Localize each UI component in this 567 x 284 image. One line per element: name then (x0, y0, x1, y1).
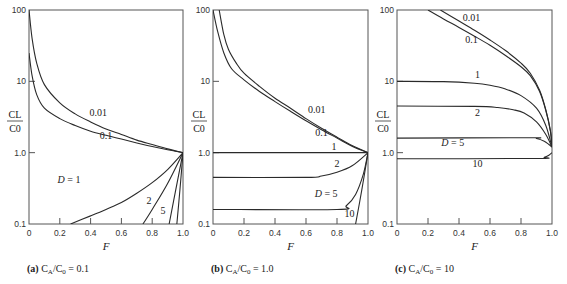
x-tick-label: 0.4 (269, 228, 281, 238)
panel-caption: (b) CA/C0 = 1.0 (211, 263, 274, 276)
y-tick-label: 0.1 (14, 219, 26, 229)
panel-c: 00.20.40.60.81.00.11.010100CLC0F0.010.11… (375, 5, 558, 276)
curve-label: 0.01 (90, 107, 108, 118)
curve-label: D = 5 (314, 188, 338, 199)
panel-b: 00.20.40.60.81.00.11.010100CLC0F0.010.11… (191, 5, 374, 276)
x-tick-label: 0 (395, 228, 400, 238)
y-axis-label-numerator: CL (193, 109, 206, 120)
curve-label: 1 (331, 141, 336, 152)
curve-label: 2 (475, 107, 480, 118)
y-tick-label: 1.0 (382, 148, 394, 158)
x-tick-label: 0.4 (453, 228, 465, 238)
panel-caption: (a) CA/C0 = 0.1 (27, 263, 89, 276)
x-tick-label: 0.8 (146, 228, 158, 238)
x-tick-label: 0.8 (331, 228, 343, 238)
series-line-d-0-01 (219, 10, 368, 153)
y-axis-label: CLC0 (7, 109, 23, 134)
y-tick-label: 0.1 (198, 219, 210, 229)
curve-label: 1 (475, 69, 480, 80)
y-axis-label-denominator: C0 (193, 123, 205, 134)
curve-label: 5 (160, 205, 165, 216)
x-tick-label: 0 (211, 228, 216, 238)
curve-label: 0.1 (315, 127, 328, 138)
panel-caption: (c) CA/C0 = 10 (395, 263, 454, 276)
plot-frame (213, 10, 368, 224)
x-tick-label: 0 (27, 228, 32, 238)
y-axis-label-denominator: C0 (377, 123, 389, 134)
figure-three-panel-chart: 00.20.40.60.81.00.11.010100CLC0F0.010.1D… (0, 0, 567, 284)
x-axis-label: F (102, 240, 110, 252)
y-tick-label: 10 (201, 76, 211, 86)
x-axis-label: F (286, 240, 294, 252)
y-tick-label: 1.0 (14, 148, 26, 158)
x-tick-label: 0.4 (85, 228, 97, 238)
curve-label: D = 5 (440, 137, 464, 148)
x-tick-label: 0.8 (515, 228, 527, 238)
curve-label: 2 (147, 195, 152, 206)
x-tick-label: 0.2 (238, 228, 250, 238)
y-tick-label: 10 (17, 76, 27, 86)
x-tick-label: 1.0 (177, 228, 189, 238)
series-line-d-5 (397, 138, 552, 147)
y-tick-label: 100 (196, 5, 210, 15)
series-line-d-5 (213, 153, 368, 210)
x-tick-label: 0.2 (54, 228, 66, 238)
x-axis-label: F (470, 240, 478, 252)
y-axis-label-numerator: CL (9, 109, 22, 120)
x-tick-label: 1.0 (362, 228, 374, 238)
curve-label: 10 (473, 158, 483, 169)
x-tick-label: 1.0 (546, 228, 558, 238)
curve-label: 0.01 (463, 12, 481, 23)
series-line-d-0-1 (213, 10, 368, 153)
y-axis-label-numerator: CL (377, 109, 390, 120)
x-tick-label: 0.2 (422, 228, 434, 238)
series-line-d-10 (356, 153, 368, 224)
y-axis-label: CLC0 (375, 109, 391, 134)
x-tick-label: 0.6 (484, 228, 496, 238)
y-tick-label: 100 (380, 5, 394, 15)
curve-label: 2 (335, 158, 340, 169)
y-tick-label: 100 (12, 5, 26, 15)
y-axis-label: CLC0 (191, 109, 207, 134)
series-line-d-0-01 (440, 10, 552, 147)
series-line-d-5 (169, 153, 183, 224)
y-axis-label-denominator: C0 (9, 123, 21, 134)
curve-label: 0.1 (100, 130, 113, 141)
curve-label: 0.01 (308, 104, 326, 115)
series-line-d-1 (71, 153, 183, 224)
series-line-d-2 (213, 153, 368, 178)
panel-a: 00.20.40.60.81.00.11.010100CLC0F0.010.1D… (7, 5, 189, 276)
x-tick-label: 0.6 (300, 228, 312, 238)
x-tick-label: 0.6 (115, 228, 127, 238)
curve-label: D = 1 (57, 174, 81, 185)
curve-label: 10 (344, 208, 354, 219)
y-tick-label: 1.0 (198, 148, 210, 158)
y-tick-label: 0.1 (382, 219, 394, 229)
y-tick-label: 10 (385, 76, 395, 86)
curve-label: 0.1 (465, 34, 478, 45)
